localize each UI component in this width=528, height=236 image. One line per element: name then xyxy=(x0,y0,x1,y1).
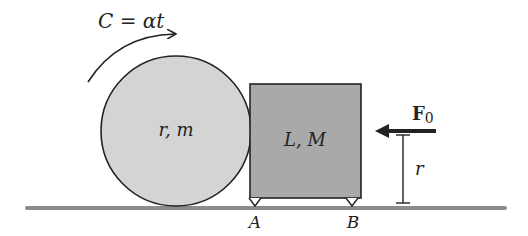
support-b-label: B xyxy=(346,212,360,232)
support-b xyxy=(346,198,358,206)
force-arrowhead xyxy=(375,124,389,138)
support-a-label: A xyxy=(247,212,261,232)
cylinder-label: r, m xyxy=(158,119,193,140)
height-label: r xyxy=(415,158,425,179)
physics-diagram: C = αt r, m L, M A B F0 r xyxy=(0,0,528,236)
block-label: L, M xyxy=(283,129,326,150)
force-label: F0 xyxy=(412,103,434,126)
torque-label: C = αt xyxy=(98,9,165,33)
support-a xyxy=(249,198,261,206)
